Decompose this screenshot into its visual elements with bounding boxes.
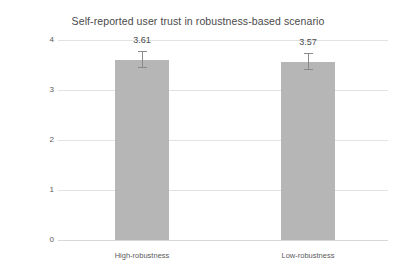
- gridline: [58, 90, 388, 91]
- y-axis-tick-labels: 4 3 2 1 0: [30, 40, 54, 240]
- error-bar-high-robustness: [136, 51, 148, 68]
- axis-baseline: [58, 240, 388, 241]
- y-tick-label: 3: [34, 86, 54, 94]
- data-label-high-robustness: 3.61: [102, 35, 182, 45]
- error-bar-cap-bottom: [304, 69, 313, 70]
- error-bar-cap-bottom: [138, 67, 147, 68]
- gridline: [58, 190, 388, 191]
- bar-high-robustness[interactable]: [115, 60, 169, 241]
- error-bar-cap-top: [138, 51, 147, 52]
- x-tick-label-low-robustness: Low-robustness: [248, 251, 368, 260]
- x-tick-label-high-robustness: High-robustness: [82, 251, 202, 260]
- bar-chart: Self-reported user trust in robustness-b…: [0, 0, 396, 267]
- data-label-low-robustness: 3.57: [268, 37, 348, 47]
- bar-low-robustness[interactable]: [281, 62, 335, 241]
- chart-title: Self-reported user trust in robustness-b…: [0, 15, 396, 27]
- y-tick-label: 2: [34, 136, 54, 144]
- error-bar-line: [308, 53, 309, 70]
- error-bar-cap-top: [304, 53, 313, 54]
- error-bar-low-robustness: [302, 53, 314, 70]
- y-tick-label: 1: [34, 186, 54, 194]
- y-tick-label: 4: [34, 36, 54, 44]
- error-bar-line: [142, 51, 143, 68]
- y-tick-label: 0: [34, 236, 54, 244]
- plot-area: 3.61 3.57 High-robustness Low-robustness: [58, 40, 388, 240]
- gridline: [58, 140, 388, 141]
